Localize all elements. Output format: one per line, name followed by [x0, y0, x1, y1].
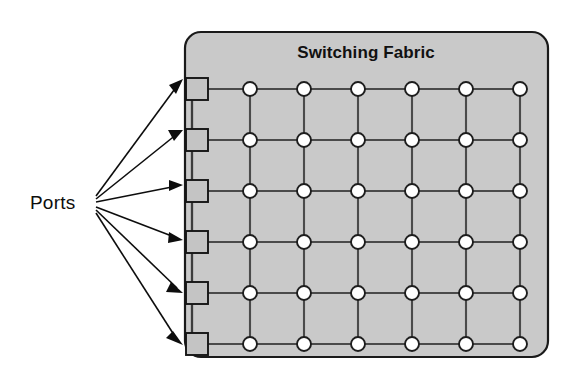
ports-arrow-head-6: [166, 331, 183, 345]
crosspoint-r1c5[interactable]: [459, 82, 473, 96]
crosspoint-r2c5[interactable]: [459, 133, 473, 147]
ports-arrow-head-3: [169, 180, 183, 191]
crosspoint-r5c3[interactable]: [351, 286, 365, 300]
port-square-4[interactable]: [186, 231, 208, 253]
crosspoint-r2c2[interactable]: [297, 133, 311, 147]
crosspoint-r6c3[interactable]: [351, 337, 365, 351]
crosspoint-r2c6[interactable]: [513, 133, 527, 147]
crosspoint-r3c1[interactable]: [243, 184, 257, 198]
crosspoint-r1c1[interactable]: [243, 82, 257, 96]
ports-arrow-2: [96, 134, 177, 199]
fabric-title: Switching Fabric: [297, 43, 435, 62]
crosspoint-r4c4[interactable]: [405, 235, 419, 249]
crosspoint-r3c4[interactable]: [405, 184, 419, 198]
ports-label: Ports: [30, 192, 75, 213]
port-square-6[interactable]: [186, 333, 208, 355]
ports-arrow-head-4: [168, 232, 183, 243]
crosspoint-r4c1[interactable]: [243, 235, 257, 249]
port-square-5[interactable]: [186, 282, 208, 304]
crosspoint-r4c3[interactable]: [351, 235, 365, 249]
port-square-2[interactable]: [186, 129, 208, 151]
crosspoint-r3c2[interactable]: [297, 184, 311, 198]
crosspoint-r1c2[interactable]: [297, 82, 311, 96]
crosspoint-r4c2[interactable]: [297, 235, 311, 249]
crosspoint-r4c5[interactable]: [459, 235, 473, 249]
crosspoint-r1c6[interactable]: [513, 82, 527, 96]
switching-fabric-body: [185, 32, 548, 357]
crosspoint-r2c1[interactable]: [243, 133, 257, 147]
ports-arrow-1: [96, 86, 177, 196]
crosspoint-r5c2[interactable]: [297, 286, 311, 300]
crosspoint-r3c5[interactable]: [459, 184, 473, 198]
ports-arrow-head-1: [169, 79, 183, 94]
crosspoint-r6c2[interactable]: [297, 337, 311, 351]
crosspoint-r5c4[interactable]: [405, 286, 419, 300]
crosspoint-r6c1[interactable]: [243, 337, 257, 351]
port-square-3[interactable]: [186, 180, 208, 202]
crosspoint-r2c3[interactable]: [351, 133, 365, 147]
crosspoint-r6c6[interactable]: [513, 337, 527, 351]
switch-fabric-diagram: Switching Fabric: [0, 0, 572, 388]
ports-callout-arrows: [96, 79, 183, 345]
crosspoint-r6c4[interactable]: [405, 337, 419, 351]
port-square-1[interactable]: [186, 78, 208, 100]
crosspoint-r1c3[interactable]: [351, 82, 365, 96]
crosspoint-r5c6[interactable]: [513, 286, 527, 300]
crosspoint-r4c6[interactable]: [513, 235, 527, 249]
crosspoint-r6c5[interactable]: [459, 337, 473, 351]
crosspoint-r5c1[interactable]: [243, 286, 257, 300]
crosspoint-r3c6[interactable]: [513, 184, 527, 198]
diagram-canvas: Switching Fabric: [0, 0, 572, 388]
crosspoint-r1c4[interactable]: [405, 82, 419, 96]
ports-arrow-head-5: [166, 282, 183, 293]
crosspoint-r2c4[interactable]: [405, 133, 419, 147]
crosspoint-r5c5[interactable]: [459, 286, 473, 300]
crosspoint-r3c3[interactable]: [351, 184, 365, 198]
